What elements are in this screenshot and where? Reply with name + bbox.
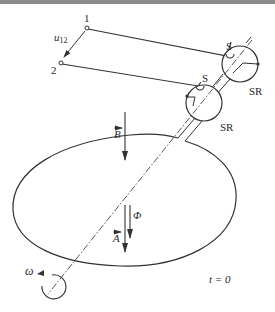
wire-upper bbox=[88, 29, 231, 56]
brush-lower-label: S bbox=[202, 72, 208, 84]
wire-lower bbox=[62, 64, 201, 86]
terminal-2-icon bbox=[59, 61, 63, 65]
time-label: t = 0 bbox=[209, 273, 231, 285]
angular-velocity-arrowhead-icon bbox=[37, 270, 44, 276]
terminal-1-icon bbox=[85, 26, 89, 30]
shaft-lower bbox=[178, 118, 202, 141]
ring-upper-label: SR bbox=[249, 85, 263, 97]
angular-velocity-label: ω bbox=[25, 264, 33, 278]
voltage-label: u12 bbox=[54, 31, 68, 45]
flux-label: Φ bbox=[133, 209, 142, 221]
field-vector-label: B bbox=[114, 128, 121, 140]
rotating-loop-diagram: 1 2 u12 S S SR SR B A Φ ω t = 0 bbox=[0, 0, 275, 312]
terminal-1-label: 1 bbox=[84, 12, 90, 24]
ring-lower-label: SR bbox=[220, 121, 234, 133]
area-vector-label: A bbox=[112, 232, 120, 244]
terminal-2-label: 2 bbox=[51, 64, 57, 76]
brush-upper-label: S bbox=[226, 40, 232, 52]
